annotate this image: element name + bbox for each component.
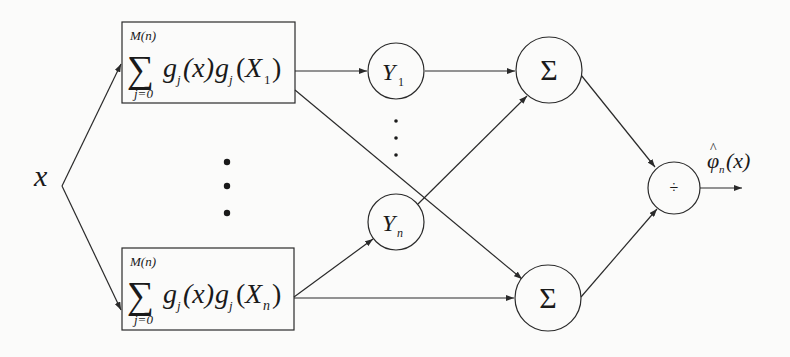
kernel-box-n: M(n) ∑ j=0 g j (x) g j ( X n ) [122,248,294,330]
diagram-canvas: x M(n) ∑ j=0 g j (x) g j ( X 1 ) M(n) ∑ … [0,0,790,357]
input-edges [62,64,121,310]
node-Y1: Y 1 [368,43,424,99]
edge-x-to-box1 [62,64,121,186]
paren-close: ) [272,278,281,309]
paren-open: ( [236,52,245,83]
node-sum-top: Σ [516,37,582,103]
sample-var: X [244,52,263,83]
ellipsis-dot [224,183,230,189]
diagram-svg: x M(n) ∑ j=0 g j (x) g j ( X 1 ) M(n) ∑ … [0,0,790,357]
sum-lower-limit: j=0 [132,312,153,327]
sum-lower-limit: j=0 [132,86,153,101]
summation-symbol: ∑ [127,274,154,317]
g-argument: (x) [183,52,214,83]
node-Y1-sub: 1 [398,75,404,89]
node-Y1-circle [368,43,424,99]
node-Yn-sub: n [397,226,403,240]
summation-symbol: ∑ [127,48,154,91]
ellipsis-dot [394,136,398,140]
ellipsis-dot [394,153,398,157]
node-Yn: Y n [368,194,424,250]
sum-upper-limit: M(n) [129,28,156,43]
box-ellipsis [224,159,230,216]
output-sub: n [719,163,725,175]
divide-icon: ÷ [670,179,679,196]
paren-close: ) [272,52,281,83]
sample-subscript: 1 [264,72,271,87]
paren-open: ( [236,278,245,309]
sigma-icon: Σ [540,53,557,86]
edge-sum-bottom-to-divide [581,209,657,297]
node-Y1-var: Y [382,59,398,85]
sum-upper-limit: M(n) [129,254,156,269]
output-label: ^ φ n (x) [707,141,750,175]
ellipsis-dot [224,210,230,216]
sample-var: X [244,278,263,309]
node-ellipsis [394,119,398,157]
edge-boxn-to-Yn [294,239,373,297]
edge-Yn-to-sum-top [418,96,527,204]
edge-box1-to-sum-bottom [295,90,522,279]
output-var: φ [707,148,719,173]
sigma-icon: Σ [539,281,556,314]
ellipsis-dot [224,159,230,165]
g-function: g [163,278,177,309]
kernel-box-1: M(n) ∑ j=0 g j (x) g j ( X 1 ) [122,22,295,103]
output-arg: (x) [726,148,750,173]
edge-x-to-boxn [62,186,121,310]
edge-sum-top-to-divide [581,75,655,167]
ellipsis-dot [394,119,398,123]
g-argument: (x) [183,278,214,309]
g-function-2: g [215,52,229,83]
g-function-2: g [215,278,229,309]
node-Yn-circle [368,194,424,250]
node-sum-bottom: Σ [515,265,581,331]
g-function: g [163,52,177,83]
input-label: x [33,159,48,192]
node-divide: ÷ [648,162,700,214]
sample-subscript: n [263,298,270,313]
